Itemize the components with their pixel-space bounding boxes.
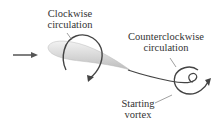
clockwise-leader-line [67, 33, 72, 40]
clockwise-label-line1: Clockwise [40, 8, 100, 19]
counterclockwise-circulation-arrow-icon [174, 67, 211, 94]
ccw-label-line2: circulation [114, 42, 218, 53]
flow-arrow-icon [13, 52, 38, 58]
clockwise-label-line2: circulation [40, 19, 100, 30]
starting-label-line1: Starting [118, 98, 158, 109]
ccw-circulation-label: Counterclockwise circulation [114, 31, 218, 53]
clockwise-circulation-label: Clockwise circulation [40, 8, 100, 30]
starting-label-line2: vortex [118, 109, 158, 120]
wake-line [128, 70, 197, 83]
ccw-leader-line [170, 58, 176, 67]
starting-vortex-label: Starting vortex [118, 98, 158, 120]
airfoil-circulation-diagram [0, 0, 224, 127]
ccw-label-line1: Counterclockwise [114, 31, 218, 42]
